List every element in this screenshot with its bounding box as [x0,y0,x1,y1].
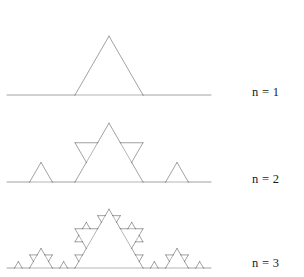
construction-lines-n2 [30,143,189,182]
construction-lines-n3 [15,216,204,268]
koch-path-n3 [7,209,211,268]
koch-curves-svg [0,0,304,277]
koch-path-n1 [7,36,211,95]
koch-curve-n2 [7,123,211,182]
iteration-label-n1: n = 1 [252,85,279,100]
iteration-label-n2: n = 2 [252,172,279,187]
koch-curve-n1 [7,36,211,95]
koch-figure: n = 1 n = 2 n = 3 [0,0,304,277]
iteration-label-n3: n = 3 [252,256,279,271]
koch-curve-n3 [7,209,211,268]
koch-path-n2 [7,123,211,182]
